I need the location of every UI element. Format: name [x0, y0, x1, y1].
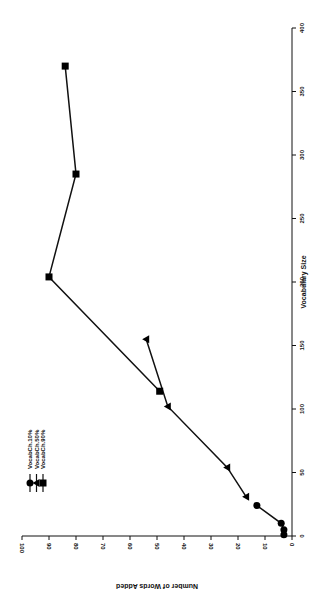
series-triangle: [142, 335, 249, 500]
legend-label: VocabCh.10%: [27, 429, 33, 469]
triangle-marker: [142, 335, 149, 343]
y-tick-label: 70: [100, 543, 106, 550]
y-tick-label: 60: [127, 543, 133, 550]
x-tick-label: 50: [299, 469, 305, 476]
legend-label: VocabCh.50%: [34, 429, 40, 469]
series-line: [49, 66, 160, 391]
circle-marker: [253, 502, 260, 509]
y-tick-label: 20: [235, 543, 241, 550]
y-tick-label: 50: [154, 543, 160, 550]
x-tick-label: 400: [299, 22, 305, 33]
axes: 0501001502002503003504000102030405060708…: [19, 22, 305, 553]
series-square: [46, 63, 164, 395]
x-axis-title: Vocabulary Size: [300, 255, 308, 308]
y-tick-label: 0: [289, 543, 295, 547]
square-marker: [73, 171, 80, 178]
series-layer: [46, 63, 288, 539]
legend: VocabCh.10%VocabCh.50%VocabCh.90%: [27, 429, 47, 492]
legend-square-icon: [40, 480, 47, 487]
y-tick-label: 10: [262, 543, 268, 550]
y-tick-label: 90: [46, 543, 52, 550]
square-marker: [156, 388, 163, 395]
y-tick-label: 100: [19, 543, 25, 554]
y-tick-label: 80: [73, 543, 79, 550]
square-marker: [46, 273, 53, 280]
triangle-marker: [242, 493, 249, 501]
x-tick-label: 0: [299, 534, 305, 538]
x-tick-label: 300: [299, 149, 305, 160]
legend-circle-icon: [27, 480, 34, 487]
x-tick-label: 100: [299, 403, 305, 414]
circle-marker: [280, 526, 287, 533]
x-tick-label: 150: [299, 340, 305, 351]
circle-marker: [278, 520, 285, 527]
series-line: [146, 339, 246, 496]
series-circle: [253, 502, 287, 538]
y-tick-label: 40: [181, 543, 187, 550]
square-marker: [62, 63, 69, 70]
line-chart: 0501001502002503003504000102030405060708…: [0, 0, 332, 597]
legend-label: VocabCh.90%: [40, 429, 46, 469]
y-tick-label: 30: [208, 543, 214, 550]
x-tick-label: 350: [299, 86, 305, 97]
y-axis-title: Number of Words Added: [116, 583, 198, 590]
x-tick-label: 250: [299, 213, 305, 224]
